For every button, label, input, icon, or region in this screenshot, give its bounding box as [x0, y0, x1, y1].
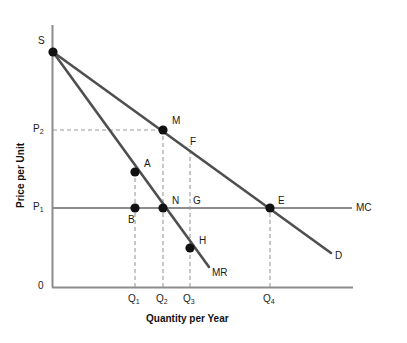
- x-tick-label-q4: Q4: [263, 294, 275, 305]
- y-tick-label-p2: P2: [33, 124, 44, 135]
- point-label-g: G: [193, 196, 201, 206]
- curve-label-d: D: [335, 251, 342, 261]
- point-label-m: M: [172, 116, 180, 126]
- y-axis-title: Price per Unit: [15, 143, 26, 208]
- mr-curve-line: [53, 52, 209, 267]
- x-tick-q1-sub: 1: [136, 298, 140, 305]
- y-tick-p2-base: P: [33, 123, 40, 134]
- point-marker-s: [48, 47, 57, 56]
- point-label-s: S: [38, 36, 45, 46]
- y-tick-p1-base: P: [33, 201, 40, 212]
- x-tick-q3-sub: 3: [191, 298, 195, 305]
- point-label-a: A: [144, 159, 151, 169]
- point-label-f: F: [190, 137, 196, 147]
- x-tick-q1-base: Q: [128, 293, 136, 304]
- chart-plot-area: [0, 0, 407, 343]
- x-tick-q2-base: Q: [156, 293, 164, 304]
- point-label-b: B: [128, 215, 135, 225]
- x-tick-q4-sub: 4: [271, 298, 275, 305]
- economics-chart-figure: Price per Unit Quantity per Year 0 P2 P1…: [0, 0, 407, 343]
- point-label-h: H: [199, 236, 206, 246]
- x-axis-title: Quantity per Year: [146, 313, 229, 324]
- point-marker-e: [265, 203, 274, 212]
- x-tick-label-q3: Q3: [183, 294, 195, 305]
- point-marker-h: [185, 243, 194, 252]
- curve-label-mc: MC: [356, 203, 372, 213]
- x-tick-q3-base: Q: [183, 293, 191, 304]
- point-marker-a: [130, 167, 139, 176]
- point-marker-m: [158, 125, 167, 134]
- point-label-n: N: [172, 196, 179, 206]
- x-tick-q2-sub: 2: [164, 298, 168, 305]
- x-tick-label-q1: Q1: [128, 294, 140, 305]
- origin-label: 0: [38, 281, 44, 291]
- y-tick-p2-sub: 2: [40, 128, 44, 135]
- point-marker-b: [130, 203, 139, 212]
- curve-label-mr: MR: [212, 268, 228, 278]
- x-tick-label-q2: Q2: [156, 294, 168, 305]
- point-marker-n: [158, 203, 167, 212]
- demand-curve-line: [53, 52, 331, 253]
- y-tick-p1-sub: 1: [40, 206, 44, 213]
- x-tick-q4-base: Q: [263, 293, 271, 304]
- point-label-e: E: [278, 196, 285, 206]
- y-tick-label-p1: P1: [33, 202, 44, 213]
